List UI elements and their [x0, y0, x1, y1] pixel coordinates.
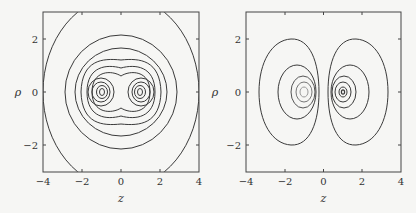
figure: −4 −2 0 2 4 2 0 −2 z ρ — [0, 0, 416, 213]
left-plot-frame — [43, 12, 199, 172]
right-xtick-5: 4 — [398, 176, 404, 187]
left-xtick-1: −4 — [36, 176, 51, 187]
left-xtick-5: 4 — [196, 176, 202, 187]
left-ytick-1: 2 — [32, 34, 38, 45]
left-ytick-3: −2 — [23, 140, 38, 151]
left-ylabel: ρ — [14, 86, 22, 99]
left-xtick-2: −2 — [75, 176, 90, 187]
left-xlabel: z — [117, 192, 124, 205]
right-ytick-3: −2 — [226, 140, 241, 151]
right-ytick-1: 2 — [235, 34, 241, 45]
right-xtick-3: 0 — [320, 176, 326, 187]
left-xtick-3: 0 — [118, 176, 124, 187]
right-panel: −4 −2 0 2 4 2 0 −2 z ρ — [211, 12, 404, 205]
left-xtick-4: 2 — [157, 176, 163, 187]
left-panel: −4 −2 0 2 4 2 0 −2 z ρ — [14, 0, 202, 205]
right-xtick-4: 2 — [359, 176, 365, 187]
left-ytick-2: 0 — [32, 87, 38, 98]
right-ytick-2: 0 — [235, 87, 241, 98]
right-plot-frame — [246, 12, 401, 172]
right-xtick-1: −4 — [239, 176, 254, 187]
right-xlabel: z — [320, 192, 327, 205]
right-ylabel: ρ — [211, 86, 219, 99]
right-xtick-2: −2 — [278, 176, 293, 187]
